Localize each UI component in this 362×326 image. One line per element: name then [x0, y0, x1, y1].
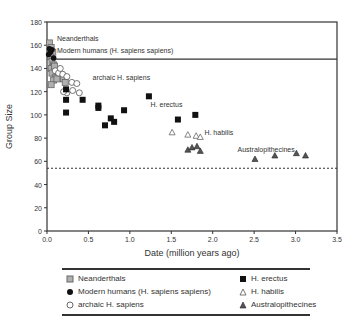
y-tick-label: 160	[30, 42, 42, 49]
scatter-chart: 0204060801001201401601800.00.51.01.52.02…	[0, 0, 362, 268]
x-tick-label: 3.5	[332, 236, 342, 243]
y-tick-label: 140	[30, 65, 42, 72]
archaic-sapiens-point	[64, 74, 70, 80]
h-erectus-point	[102, 122, 108, 128]
y-tick-label: 180	[30, 19, 42, 26]
open-triangle-marker-icon	[239, 288, 247, 296]
australopithecine-point	[194, 143, 200, 149]
open-circle-marker-icon	[66, 301, 74, 309]
legend-label: H. habilis	[251, 287, 284, 296]
h-erectus-point	[63, 97, 69, 103]
australopithecine-point	[303, 153, 309, 159]
h-erectus-point	[80, 97, 86, 103]
y-tick-label: 40	[34, 182, 42, 189]
modern-human-point	[47, 46, 53, 52]
x-tick-label: 0.0	[42, 236, 52, 243]
legend-item-neanderthals: Neanderthals	[66, 274, 126, 283]
legend-item-archaic-sapiens: archaic H. sapiens	[66, 300, 144, 309]
h-habilis-point	[169, 129, 175, 135]
y-tick-label: 20	[34, 205, 42, 212]
x-tick-label: 1.0	[125, 236, 135, 243]
y-axis-label: Group Size	[4, 104, 14, 149]
legend-label: H. erectus	[251, 274, 287, 283]
x-tick-label: 3.0	[291, 236, 301, 243]
annotation-label: Australopithecines	[238, 146, 296, 154]
x-tick-label: 2.5	[249, 236, 259, 243]
legend-label: archaic H. sapiens	[78, 300, 144, 309]
legend-item-h-habilis: H. habilis	[239, 287, 284, 296]
annotation-label: H. erectus	[151, 101, 183, 108]
y-tick-label: 120	[30, 89, 42, 96]
legend-label: Modern humans (H. sapiens sapiens)	[78, 287, 211, 296]
neanderthal-point	[62, 79, 68, 85]
legend-item-h-erectus: H. erectus	[239, 274, 287, 283]
black-square-marker-icon	[239, 275, 247, 283]
y-tick-label: 100	[30, 112, 42, 119]
y-tick-label: 0	[38, 228, 42, 235]
y-tick-label: 80	[34, 135, 42, 142]
h-erectus-point	[175, 117, 181, 123]
archaic-sapiens-point	[57, 65, 63, 71]
chart-legend: Neanderthals Modern humans (H. sapiens s…	[62, 268, 310, 316]
h-habilis-point	[185, 132, 191, 138]
legend-item-australopithecines: Australopithecines	[239, 300, 316, 309]
annotation-label: archaic H. sapiens	[93, 74, 151, 82]
modern-human-point	[51, 55, 57, 61]
archaic-sapiens-point	[74, 81, 80, 87]
australopithecine-point	[189, 144, 195, 150]
australopithecine-point	[252, 156, 258, 162]
annotation-label: Neanderthals	[57, 35, 99, 42]
x-tick-label: 2.0	[208, 236, 218, 243]
black-circle-marker-icon	[66, 288, 74, 296]
h-erectus-point	[63, 110, 69, 116]
gray-square-marker-icon	[66, 275, 74, 283]
neanderthal-point	[54, 76, 60, 82]
filled-triangle-marker-icon	[239, 301, 247, 309]
h-erectus-point	[95, 105, 101, 111]
h-erectus-point	[121, 107, 127, 113]
neanderthal-point	[48, 82, 54, 88]
australopithecine-point	[272, 153, 278, 159]
y-tick-label: 60	[34, 158, 42, 165]
legend-label: Australopithecines	[251, 300, 316, 309]
archaic-sapiens-point	[70, 88, 76, 94]
annotation-label: Modern humans (H. sapiens sapiens)	[57, 47, 173, 55]
h-erectus-point	[63, 86, 69, 92]
x-tick-label: 1.5	[166, 236, 176, 243]
legend-item-modern-humans: Modern humans (H. sapiens sapiens)	[66, 287, 211, 296]
h-erectus-point	[192, 112, 198, 118]
legend-label: Neanderthals	[78, 274, 126, 283]
annotation-label: H. habilis	[204, 129, 233, 136]
archaic-sapiens-point	[76, 90, 82, 96]
x-axis-label: Date (million years ago)	[144, 248, 239, 258]
h-erectus-point	[111, 119, 117, 125]
x-tick-label: 0.5	[84, 236, 94, 243]
h-erectus-point	[146, 93, 152, 99]
